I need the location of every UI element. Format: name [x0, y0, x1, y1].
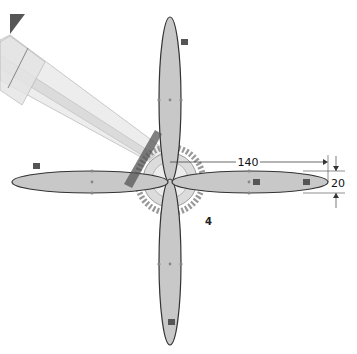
fix-relation-icon-right-inner[interactable]	[253, 179, 260, 185]
pattern-count-label: 4	[205, 216, 212, 227]
dimension-width-value[interactable]: 20	[331, 177, 345, 190]
sketch-canvas[interactable]: 140 20 4	[0, 0, 357, 354]
corner-feature-icon	[10, 14, 25, 34]
fix-relation-icon-top[interactable]	[181, 39, 188, 45]
fix-relation-icon-left[interactable]	[33, 163, 40, 169]
fix-relation-icon-bottom[interactable]	[168, 319, 175, 325]
fix-relation-icon-right-outer[interactable]	[303, 179, 310, 185]
diagonal-beam[interactable]	[0, 14, 165, 162]
dimension-length-value[interactable]: 140	[238, 156, 259, 169]
